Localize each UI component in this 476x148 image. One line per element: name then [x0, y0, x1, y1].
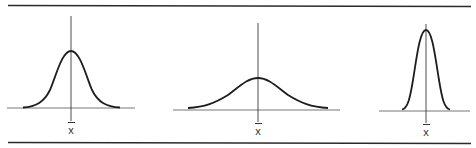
- bell-curve: [23, 51, 120, 108]
- overbar: [68, 122, 75, 123]
- bottom-rule: [8, 143, 471, 144]
- panel-narrow-spread: [379, 24, 470, 123]
- panel-wide-spread: [173, 23, 340, 122]
- mean-label-narrow: x: [419, 124, 433, 138]
- mean-label-medium: x: [64, 122, 78, 136]
- top-rule: [8, 6, 471, 7]
- overbar: [255, 123, 262, 124]
- mean-label-wide: x: [251, 123, 265, 137]
- panel-medium-spread: [7, 16, 135, 121]
- overbar: [423, 124, 430, 125]
